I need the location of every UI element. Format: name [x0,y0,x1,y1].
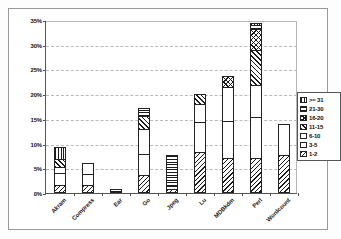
bar-segment[interactable] [250,158,262,193]
x-axis-labels: AkramCompressEarGoJpegLuMDBkdmPerlWordco… [45,195,297,237]
bar-segment[interactable] [250,85,262,117]
bar-segment[interactable] [222,87,234,121]
bar-stack[interactable] [54,147,66,193]
x-axis-label: Compress [71,197,96,222]
x-axis-tick-mark [298,193,299,196]
legend-item[interactable]: 1-2 [300,149,338,158]
x-axis-label: Wordcount [265,197,292,224]
bar-segment[interactable] [82,174,94,184]
legend-label: 21-30 [309,106,323,112]
bar-segment[interactable] [138,108,150,116]
legend-item[interactable]: 6-10 [300,131,338,140]
legend-swatch [300,115,307,121]
bar-segment[interactable] [250,117,262,158]
bar-segment[interactable] [250,50,262,85]
bar-stack[interactable] [166,155,178,193]
y-axis-tick-label: 5% [34,166,42,172]
bar-segment[interactable] [222,158,234,193]
bar-segment[interactable] [54,173,66,185]
x-axis-label: Perl [251,197,264,210]
legend-swatch [300,106,307,112]
bar-segment[interactable] [250,29,262,50]
bar-segment[interactable] [138,175,150,193]
x-axis-label: Akram [50,197,68,215]
legend-swatch [300,124,307,130]
bar-stack[interactable] [82,163,94,193]
bar-segment[interactable] [194,122,206,152]
bar-stack[interactable] [110,189,122,193]
legend-label: 3-5 [309,142,317,148]
bar-segment[interactable] [194,94,206,104]
bar-segment[interactable] [54,159,66,167]
bar-segment[interactable] [54,147,66,159]
legend-label: 6-10 [309,133,320,139]
plot-inner: 0%5%10%15%20%25%30%35% [46,21,297,193]
bar-segment[interactable] [222,121,234,158]
bar-segment[interactable] [138,116,150,129]
y-axis-tick-label: 30% [31,43,42,49]
bar-segment[interactable] [110,189,122,193]
legend-swatch [300,97,307,103]
x-axis-label: Lu [198,197,208,207]
y-axis-tick-label: 20% [31,92,42,98]
x-axis-label: MDBkdm [213,197,236,220]
bar-segment[interactable] [138,154,150,175]
y-axis-tick-label: 15% [31,117,42,123]
bar-segment[interactable] [278,124,290,155]
bar-segment[interactable] [166,189,178,193]
bar-segment[interactable] [194,152,206,193]
legend-item[interactable]: >= 31 [300,95,338,104]
legend-swatch [300,142,307,148]
bar-segment[interactable] [54,185,66,193]
legend-item[interactable]: 21-30 [300,104,338,113]
bar-stack[interactable] [194,94,206,193]
legend-label: 11-15 [309,124,323,130]
y-axis-tick-label: 10% [31,142,42,148]
legend-label: 16-20 [309,115,323,121]
bar-segment[interactable] [82,185,94,193]
legend-swatch [300,133,307,139]
bar-segment[interactable] [138,129,150,155]
legend-label: >= 31 [309,97,323,103]
bar-segment[interactable] [82,163,94,174]
legend-item[interactable]: 11-15 [300,122,338,131]
bar-stack[interactable] [250,23,262,193]
x-axis-label: Ear [112,197,124,209]
x-axis-label: Jpeg [165,197,180,212]
legend-item[interactable]: 3-5 [300,140,338,149]
bar-segment[interactable] [222,76,234,87]
bar-stack[interactable] [222,76,234,193]
x-axis-label: Go [141,197,152,208]
bars-layer [46,21,297,193]
bar-stack[interactable] [278,124,290,193]
legend-label: 1-2 [309,151,317,157]
figure-frame: 0%5%10%15%20%25%30%35% AkramCompressEarG… [8,8,328,230]
legend-item[interactable]: 16-20 [300,113,338,122]
bar-segment[interactable] [278,155,290,193]
bar-stack[interactable] [138,108,150,193]
bar-segment[interactable] [194,104,206,122]
plot-area: 0%5%10%15%20%25%30%35% [45,21,297,194]
bar-segment[interactable] [166,155,178,186]
y-axis-tick-label: 35% [31,18,42,24]
y-axis-tick-label: 25% [31,67,42,73]
legend-swatch [300,151,307,157]
y-axis-tick-label: 0% [34,191,42,197]
chart-legend: >= 3121-3016-2011-156-103-51-2 [297,92,341,161]
